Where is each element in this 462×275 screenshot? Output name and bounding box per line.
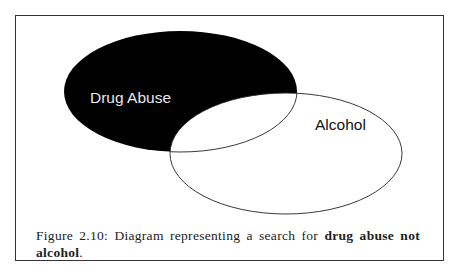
caption-suffix: . xyxy=(79,245,83,260)
caption-prefix: Figure 2.10: Diagram representing a sear… xyxy=(36,228,324,243)
alcohol-set xyxy=(170,93,402,214)
figure-caption: Figure 2.10: Diagram representing a sear… xyxy=(36,227,420,261)
alcohol-label: Alcohol xyxy=(315,116,366,134)
drug-abuse-label: Drug Abuse xyxy=(90,89,171,107)
